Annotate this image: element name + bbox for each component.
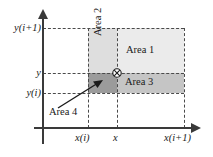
area-3-label: Area 3 xyxy=(125,77,153,88)
x-tick-label-left: x(i) xyxy=(75,133,90,144)
x-axis-line xyxy=(34,127,192,129)
area-4-label: Area 4 xyxy=(49,107,77,118)
y-tick-label-lower: y(i) xyxy=(26,88,41,99)
interpolation-point-marker-icon xyxy=(111,67,123,79)
bilinear-interpolation-diagram: y(i+1) y y(i) x(i) x x(i+1) Area 1 Area … xyxy=(0,0,213,157)
x-tick-right-plus: +1 xyxy=(175,132,187,143)
x-tick-label-right: x(i+1) xyxy=(164,133,191,144)
area-1-label: Area 1 xyxy=(126,45,154,56)
x-tick-right-close: ) xyxy=(187,132,191,143)
y-tick-upper-plus: +1 xyxy=(25,22,37,33)
y-axis-line xyxy=(42,16,44,144)
dashed-line-y-lower xyxy=(43,93,184,94)
x-tick-left-close: ) xyxy=(86,132,90,143)
dashed-line-x-right xyxy=(184,28,185,128)
y-tick-base: y xyxy=(36,67,41,78)
x-tick-label: x xyxy=(113,133,118,144)
x-tick-base: x xyxy=(113,132,118,143)
dashed-line-y-upper xyxy=(43,28,184,29)
x-axis-arrow-icon xyxy=(191,123,201,133)
dashed-line-x-left xyxy=(88,28,89,128)
y-tick-label: y xyxy=(36,68,41,79)
y-tick-label-upper: y(i+1) xyxy=(14,23,41,34)
y-tick-lower-close: ) xyxy=(38,87,42,98)
y-axis-arrow-icon xyxy=(38,9,48,19)
y-tick-upper-close: ) xyxy=(38,22,42,33)
area-2-label: Area 2 xyxy=(93,8,104,36)
